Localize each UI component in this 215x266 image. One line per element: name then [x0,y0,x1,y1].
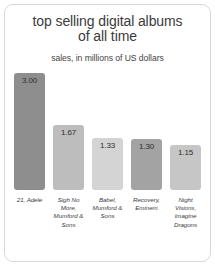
category-label: Sigh No More, Mumford & Sons [53,196,84,229]
bar-value-label: 1.15 [170,148,201,157]
bar-slot: 1.15 [170,73,201,190]
bar-value-label: 3.00 [14,76,45,85]
bar-slot: 3.00 [14,73,45,190]
bar[interactable]: 1.15 [170,145,201,190]
chart-title-line-1: top selling digital albums [33,13,183,29]
bar[interactable]: 1.30 [131,139,162,190]
chart-subtitle: sales, in millions of US dollars [10,53,205,63]
category-axis: 21, AdeleSigh No More, Mumford & SonsBab… [10,196,205,229]
bar[interactable]: 1.67 [53,125,84,190]
bar-value-label: 1.33 [92,141,123,150]
category-label: Recovery, Eminem [131,196,162,229]
chart-title-line-2: of all time [10,29,205,44]
category-label: 21, Adele [14,196,45,229]
bar[interactable]: 1.33 [92,138,123,190]
chart-title: top selling digital albums of all time [10,14,205,44]
bar-slot: 1.33 [92,73,123,190]
bar-value-label: 1.67 [53,128,84,137]
category-label: Babel, Mumford & Sons [92,196,123,229]
category-label: Night Visions, Imagine Dragons [170,196,201,229]
plot-area: 3.001.671.331.301.15 [10,73,205,190]
chart-figure: top selling digital albums of all time s… [0,0,215,266]
bar-slot: 1.30 [131,73,162,190]
bar-value-label: 1.30 [131,142,162,151]
bar-slot: 1.67 [53,73,84,190]
bar[interactable]: 3.00 [14,73,45,190]
